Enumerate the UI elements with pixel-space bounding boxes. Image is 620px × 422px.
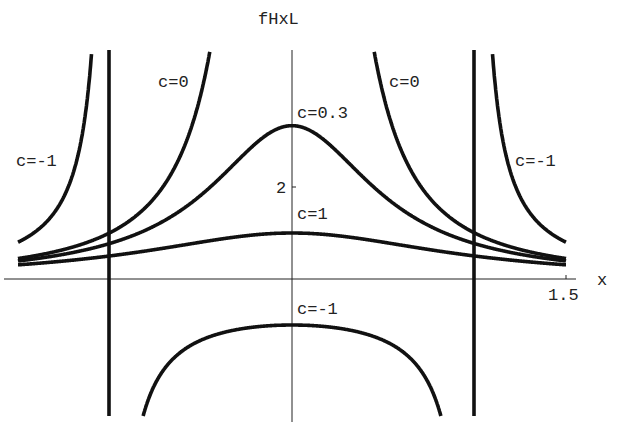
curve-cm1 [493, 54, 567, 242]
label-c03: c=0.3 [297, 104, 348, 123]
x-tick-label: 1.5 [548, 286, 579, 305]
label-cm1-bottom: c=-1 [297, 300, 338, 319]
x-axis-label: x [597, 271, 607, 290]
curve-cm1 [18, 54, 92, 242]
y-tick-label: 2 [276, 179, 286, 198]
y-axis-label: fHxL [258, 10, 299, 29]
function-plot: fHxL x 1.5 2 c=0.3 c=0 c=0 c=1 c=-1 c=-1… [0, 0, 620, 422]
label-cm1-left: c=-1 [16, 152, 57, 171]
label-cm1-right: c=-1 [515, 152, 556, 171]
label-c0-left: c=0 [158, 73, 189, 92]
label-c1: c=1 [297, 205, 328, 224]
label-c0-right: c=0 [389, 73, 420, 92]
